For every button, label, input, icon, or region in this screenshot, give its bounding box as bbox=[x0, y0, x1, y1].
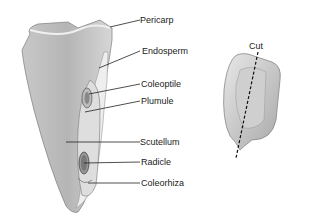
label-pericarp: Pericarp bbox=[140, 15, 174, 25]
label-plumule: Plumule bbox=[141, 96, 174, 106]
sectioned-kernel bbox=[22, 20, 112, 212]
label-endosperm: Endosperm bbox=[142, 46, 188, 56]
label-coleoptile: Coleoptile bbox=[141, 79, 181, 89]
whole-kernel bbox=[224, 52, 281, 158]
label-coleorhiza: Coleorhiza bbox=[141, 178, 184, 188]
label-radicle: Radicle bbox=[141, 157, 171, 167]
label-scutellum: Scutellum bbox=[140, 137, 180, 147]
label-cut: Cut bbox=[249, 41, 263, 51]
